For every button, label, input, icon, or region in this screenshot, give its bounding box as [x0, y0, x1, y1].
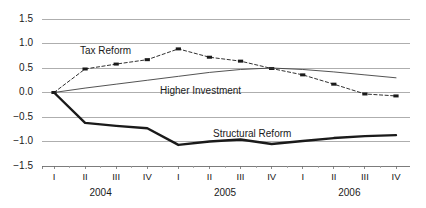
- y-axis-tick-label: −1.5: [0, 161, 33, 171]
- series-marker-tax-reform: [82, 67, 87, 70]
- x-axis-tick-label: I: [39, 172, 69, 182]
- y-axis-tick-label: 0.0: [0, 87, 33, 97]
- y-axis-tick-label: 0.5: [0, 63, 33, 73]
- x-axis-tick-label: IV: [132, 172, 162, 182]
- x-axis-tick-label: IV: [381, 172, 411, 182]
- x-axis-year-label: 2004: [76, 187, 126, 198]
- x-axis-tick-label: II: [194, 172, 224, 182]
- series-marker-tax-reform: [393, 94, 398, 97]
- x-axis-year-label: 2006: [324, 187, 374, 198]
- y-axis-tick-label: 1.0: [0, 38, 33, 48]
- series-annotation-tax-reform: Tax Reform: [80, 45, 131, 56]
- x-axis-tick-label: III: [350, 172, 380, 182]
- series-marker-tax-reform: [238, 60, 243, 63]
- series-annotation-higher-investment: Higher Investment: [160, 85, 241, 96]
- y-axis-tick-label: −1.0: [0, 136, 33, 146]
- series-marker-tax-reform: [331, 83, 336, 86]
- y-axis-tick-label: −0.5: [0, 112, 33, 122]
- x-axis-tick-label: III: [226, 172, 256, 182]
- series-marker-tax-reform: [300, 73, 305, 76]
- chart-container: 1.51.00.50.0−0.5−1.0−1.5IIIIIIIVIIIIIIIV…: [0, 0, 426, 208]
- x-axis-year-label: 2005: [200, 187, 250, 198]
- series-marker-tax-reform: [362, 92, 367, 95]
- series-marker-tax-reform: [145, 58, 150, 61]
- x-axis-tick-label: I: [288, 172, 318, 182]
- x-axis-tick-label: II: [70, 172, 100, 182]
- x-axis-tick-label: IV: [257, 172, 287, 182]
- x-axis-tick-label: III: [101, 172, 131, 182]
- x-axis-tick-label: II: [319, 172, 349, 182]
- y-axis-tick-label: 1.5: [0, 14, 33, 24]
- series-annotation-structural-reform: Structural Reform: [213, 128, 291, 139]
- x-axis-tick-label: I: [163, 172, 193, 182]
- series-marker-tax-reform: [176, 47, 181, 50]
- series-marker-tax-reform: [114, 63, 119, 66]
- series-marker-tax-reform: [207, 56, 212, 59]
